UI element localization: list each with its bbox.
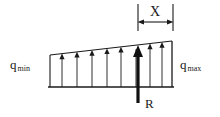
load-arrow [147,44,152,88]
q-max-symbol: q [180,57,187,72]
load-arrow [74,52,79,87]
label-resultant-r: R [145,97,154,110]
load-arrow [59,54,64,88]
pressure-diagram: qmin qmax X R [0,0,220,117]
q-min-symbol: q [10,57,17,72]
trapezoid-sloped-top-edge [50,41,172,55]
pressure-trapezoid [48,41,174,87]
load-arrow [104,48,109,87]
resultant-arrowhead [133,45,143,57]
load-arrow-group [59,42,164,87]
label-x-dimension: X [150,5,160,19]
q-max-subscript: max [188,64,202,73]
q-min-subscript: min [18,64,30,73]
resultant-arrow-r [133,45,143,103]
load-arrow [159,42,164,87]
load-arrow [118,47,123,87]
label-q-min: qmin [10,58,29,71]
label-q-max: qmax [180,58,200,71]
load-arrow [89,50,94,87]
